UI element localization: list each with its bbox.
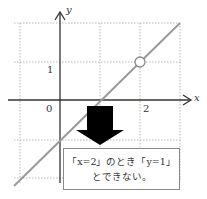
y-axis-label: y [66,4,72,15]
x-axis-label: x [194,92,200,103]
x-tick-label-2: 2 [143,103,149,114]
y-tick-label-1: 1 [47,64,53,75]
origin-label: 0 [46,103,52,114]
callout-line-2: とできない。 [92,169,152,184]
open-point [135,57,145,67]
callout-line-1: 「x=2」のとき「y=1」 [67,154,176,169]
down-arrow-icon [76,106,124,145]
callout-box: 「x=2」のとき「y=1」 とできない。 [63,148,180,190]
